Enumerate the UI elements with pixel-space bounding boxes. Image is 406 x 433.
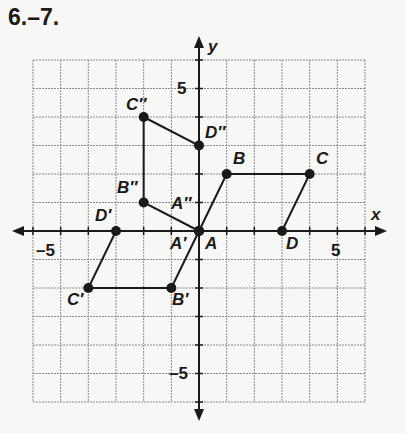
label-C: C	[316, 149, 329, 168]
label-A: A	[204, 234, 217, 253]
vertex-point	[194, 141, 204, 151]
y-axis-down-arrow-icon	[194, 409, 204, 421]
x-axis-left-arrow-icon	[12, 226, 24, 236]
x-axis-right-arrow-icon	[375, 226, 387, 236]
label-B: B	[233, 149, 245, 168]
label-C-prime: C′	[67, 290, 84, 309]
label-D-prime: D′	[95, 206, 112, 225]
label-B-prime: B′	[172, 290, 189, 309]
vertex-point	[194, 226, 204, 236]
vertex-point	[111, 226, 121, 236]
vertex-point	[222, 169, 232, 179]
vertex-point	[83, 283, 93, 293]
x-tick-neg5: –5	[36, 241, 55, 260]
coordinate-plane: x y –5 5 5 –5 B C D A A′ B′ C′ D′ A″ B″ …	[0, 0, 406, 433]
y-axis-up-arrow-icon	[194, 36, 204, 48]
x-axis-label: x	[370, 205, 382, 224]
label-A-prime: A′	[169, 234, 187, 253]
label-B-double-prime: B″	[117, 178, 138, 197]
label-A-double-prime: A″	[170, 194, 192, 213]
vertex-point	[139, 198, 149, 208]
label-D: D	[286, 234, 298, 253]
vertex-point	[305, 169, 315, 179]
x-tick-pos5: 5	[331, 241, 340, 260]
y-tick-neg5: –5	[169, 364, 188, 383]
label-C-double-prime: C″	[126, 95, 147, 114]
y-tick-pos5: 5	[177, 79, 186, 98]
label-D-double-prime: D″	[205, 123, 226, 142]
y-axis-label: y	[207, 37, 219, 56]
